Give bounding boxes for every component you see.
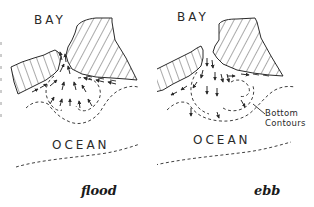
bottom-contours	[16, 76, 140, 167]
bay-label: BAY	[177, 11, 209, 23]
arrow-icon	[221, 74, 223, 82]
tidal-inlet-flow-figure: BAY OCEAN flood	[0, 0, 314, 207]
arrow-icon	[68, 66, 70, 74]
arrow-icon	[32, 89, 38, 92]
arrow-icon	[171, 92, 177, 95]
bottom-contours-label-line1: Bottom	[265, 108, 298, 118]
arrow-icon	[62, 82, 64, 90]
arrow-icon	[212, 60, 213, 68]
ocean-label: OCEAN	[52, 139, 110, 151]
arrow-icon	[50, 97, 54, 104]
ebb-panel: BAY OCEAN Bottom Contours ebb	[157, 0, 314, 207]
ebb-caption: ebb	[254, 184, 280, 197]
arrow-icon	[193, 82, 197, 88]
right-land-hatched-icon	[213, 18, 283, 76]
flood-map	[0, 0, 157, 207]
flood-caption: flood	[81, 184, 117, 197]
arrow-icon	[217, 112, 219, 118]
arrow-icon	[227, 74, 229, 82]
arrow-icon	[241, 74, 249, 75]
arrow-icon	[108, 82, 116, 84]
arrow-icon	[82, 85, 86, 92]
bottom-contours-label-line2: Contours	[265, 118, 306, 128]
arrow-icon	[96, 80, 104, 82]
ebb-map	[157, 0, 314, 207]
arrow-icon	[181, 86, 187, 90]
left-land-hatched-icon	[11, 50, 61, 94]
right-land-hatched-icon	[66, 18, 137, 80]
bay-label: BAY	[34, 14, 66, 26]
arrow-icon	[74, 82, 76, 90]
flood-panel: BAY OCEAN flood	[0, 0, 157, 207]
arrow-icon	[50, 80, 57, 86]
arrow-icon	[60, 64, 64, 72]
left-land-hatched-icon	[157, 46, 203, 92]
arrow-icon	[79, 101, 80, 108]
arrow-icon	[241, 100, 245, 107]
arrow-icon	[201, 70, 203, 78]
arrow-icon	[40, 84, 47, 88]
arrow-icon	[88, 99, 92, 106]
arrow-icon	[60, 99, 62, 106]
ocean-label: OCEAN	[193, 134, 251, 146]
